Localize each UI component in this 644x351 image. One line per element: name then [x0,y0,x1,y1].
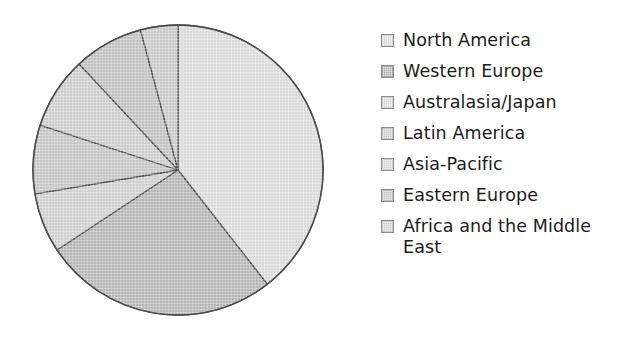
legend-item[interactable]: Latin America [381,123,631,144]
legend-item[interactable]: Eastern Europe [381,185,631,206]
legend-swatch-icon [381,158,394,171]
legend-swatch-icon [381,127,394,140]
legend-item-label: Western Europe [403,61,543,82]
chart-legend: North AmericaWestern EuropeAustralasia/J… [381,30,631,268]
legend-item[interactable]: Australasia/Japan [381,92,631,113]
pie-chart-figure: North AmericaWestern EuropeAustralasia/J… [0,0,644,351]
legend-item-label: Eastern Europe [403,185,538,206]
legend-item[interactable]: Western Europe [381,61,631,82]
legend-swatch-icon [381,220,394,233]
legend-swatch-icon [381,96,394,109]
legend-item[interactable]: Africa and the Middle East [381,216,631,258]
legend-swatch-icon [381,189,394,202]
legend-item-label: Australasia/Japan [403,92,557,113]
legend-item-label: Latin America [403,123,525,144]
legend-item[interactable]: Asia-Pacific [381,154,631,175]
pie-chart-svg [0,0,356,351]
legend-item[interactable]: North America [381,30,631,51]
pie-texture-overlay [33,25,323,315]
legend-item-label: North America [403,30,531,51]
legend-item-label: Africa and the Middle East [403,216,631,258]
pie-chart-plot-area [0,0,356,351]
legend-item-label: Asia-Pacific [403,154,503,175]
legend-swatch-icon [381,34,394,47]
legend-swatch-icon [381,65,394,78]
